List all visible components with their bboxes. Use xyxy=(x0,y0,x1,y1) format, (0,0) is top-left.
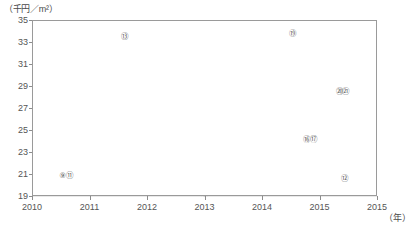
x-tick-label: 2015 xyxy=(309,202,329,212)
plot-area xyxy=(32,20,377,196)
x-tick-label: 2015 xyxy=(367,202,387,212)
x-tick-mark xyxy=(377,196,378,200)
y-tick-mark xyxy=(29,174,32,175)
series-callout-label: ⑲ xyxy=(289,30,296,38)
x-tick-label: 2010 xyxy=(22,202,42,212)
y-tick-mark xyxy=(29,130,32,131)
series-callout-label: ⑯⑰ xyxy=(303,136,317,144)
y-tick-label: 23 xyxy=(4,148,28,157)
x-tick-mark xyxy=(147,196,148,200)
x-tick-label: 2014 xyxy=(252,202,272,212)
series-callout-label: ⑫ xyxy=(341,176,348,184)
x-tick-mark xyxy=(90,196,91,200)
y-tick-label: 31 xyxy=(4,60,28,69)
x-tick-label: 2011 xyxy=(80,202,99,212)
y-tick-label: 27 xyxy=(4,104,28,113)
x-tick-mark xyxy=(262,196,263,200)
plot-border xyxy=(32,20,377,196)
x-tick-mark xyxy=(205,196,206,200)
y-tick-label: 33 xyxy=(4,38,28,47)
y-tick-mark xyxy=(29,42,32,43)
y-tick-label: 35 xyxy=(4,16,28,25)
series-callout-label: ⑨⑪ xyxy=(59,172,72,180)
y-axis-unit-label: （千円／m²） xyxy=(4,2,57,15)
x-tick-mark xyxy=(320,196,321,200)
y-tick-mark xyxy=(29,152,32,153)
y-tick-mark xyxy=(29,64,32,65)
y-tick-label: 29 xyxy=(4,82,28,91)
x-tick-mark xyxy=(32,196,33,200)
y-tick-mark xyxy=(29,108,32,109)
y-tick-label: 21 xyxy=(4,170,28,179)
x-tick-label: 2013 xyxy=(194,202,214,212)
y-tick-label: 19 xyxy=(4,192,28,201)
y-tick-label: 25 xyxy=(4,126,28,135)
y-tick-mark xyxy=(29,20,32,21)
x-axis-unit-label: （年） xyxy=(384,211,411,224)
x-tick-label: 2012 xyxy=(137,202,157,212)
chart-root: （千円／m²） （年） 353331292725232119 201020112… xyxy=(0,0,413,228)
series-callout-label: ⑬ xyxy=(121,33,128,41)
series-callout-label: ⑳㉑ xyxy=(336,88,350,96)
y-tick-mark xyxy=(29,86,32,87)
